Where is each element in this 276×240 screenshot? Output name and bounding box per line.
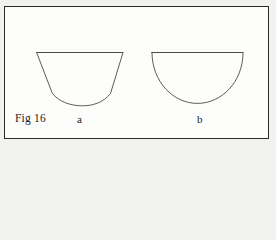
shape-label-b: b <box>197 114 203 125</box>
shape-label-a: a <box>77 114 82 125</box>
figure-caption: Fig 16 <box>15 113 46 125</box>
